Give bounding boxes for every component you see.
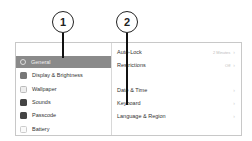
row-language-region[interactable]: Language & Region › [112,110,241,122]
chevron-right-icon: › [233,113,235,119]
chevron-right-icon: › [233,87,235,93]
row-keyboard[interactable]: Keyboard › [112,97,241,109]
row-label: Language & Region [117,113,233,119]
general-detail-pane: Auto-Lock 2 Minutes › Restrictions Off ›… [112,43,241,135]
callout-1-leader-line [62,33,64,58]
settings-window: General Display & Brightness Wallpaper S… [15,42,242,136]
sidebar-item-label: General [31,59,51,65]
callout-number: 2 [124,16,130,28]
row-label: Keyboard [117,100,233,106]
lock-icon [20,112,27,119]
callout-2: 2 [116,11,138,33]
chevron-right-icon: › [233,100,235,106]
row-value: Off [225,63,230,68]
display-icon [20,72,27,79]
callout-1: 1 [52,11,74,33]
row-label: Auto-Lock [117,49,213,55]
battery-icon [20,126,27,133]
chevron-right-icon: › [233,62,235,68]
sidebar-item-passcode[interactable]: Passcode [16,109,111,121]
sidebar-item-label: Display & Brightness [32,72,83,78]
settings-sidebar: General Display & Brightness Wallpaper S… [16,43,112,135]
sidebar-item-label: Battery [32,126,49,132]
row-label: Date & Time [117,87,233,93]
row-date-time[interactable]: Date & Time › [112,84,241,96]
row-auto-lock[interactable]: Auto-Lock 2 Minutes › [112,46,241,58]
row-restrictions[interactable]: Restrictions Off › [112,59,241,71]
row-value: 2 Minutes [213,50,230,55]
sidebar-item-label: Wallpaper [32,86,57,92]
chevron-right-icon: › [233,49,235,55]
sidebar-item-label: Passcode [32,112,56,118]
sidebar-item-label: Sounds [32,99,51,105]
sidebar-item-sounds[interactable]: Sounds [16,96,111,108]
speaker-icon [20,99,27,106]
sidebar-item-display-brightness[interactable]: Display & Brightness [16,69,111,81]
sidebar-item-battery[interactable]: Battery [16,123,111,135]
callout-number: 1 [60,16,66,28]
gear-icon [20,59,26,65]
row-label: Restrictions [117,62,225,68]
callout-2-leader-line [126,33,128,105]
wallpaper-icon [20,86,27,93]
sidebar-item-wallpaper[interactable]: Wallpaper [16,83,111,95]
